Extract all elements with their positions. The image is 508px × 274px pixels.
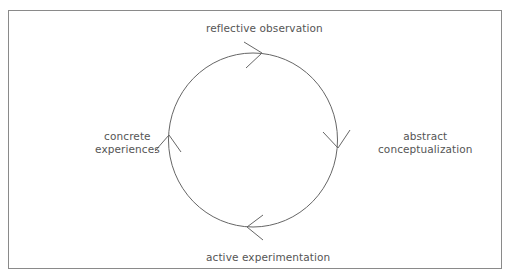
stage-label-line: concrete (95, 130, 160, 143)
stage-label-abstract-conceptualization: abstract conceptualization (378, 130, 473, 156)
arrow-left-icon (247, 215, 263, 240)
stage-label-concrete-experiences: concrete experiences (95, 130, 160, 156)
stage-label-line: experiences (95, 143, 160, 156)
stage-label-line: conceptualization (378, 143, 473, 156)
stage-label-line: abstract (378, 130, 473, 143)
cycle-circle (169, 53, 338, 227)
stage-label-active-experimentation: active experimentation (206, 251, 330, 264)
arrow-down-icon (323, 130, 350, 148)
stage-label-reflective-observation: reflective observation (206, 22, 323, 35)
arrow-right-icon (244, 42, 262, 68)
